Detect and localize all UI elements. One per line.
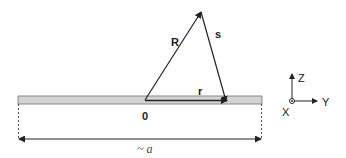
x-axis-dot (291, 100, 293, 102)
vector-r-label: r (198, 85, 203, 97)
vector-s-arrow (201, 12, 226, 101)
vector-R-arrow (145, 12, 201, 100)
vector-R-label: R (171, 36, 179, 48)
y-axis-label: Y (322, 96, 330, 108)
diagram-svg: R s r 0 ~ a Z Y X (0, 0, 346, 158)
coordinate-axes: Z Y X (282, 72, 330, 118)
vector-s-label: s (215, 28, 221, 40)
x-axis-label: X (282, 106, 290, 118)
diagram-canvas: R s r 0 ~ a Z Y X (0, 0, 346, 158)
z-axis-label: Z (298, 72, 305, 84)
width-label: ~ a (137, 142, 153, 156)
origin-label: 0 (142, 110, 148, 122)
